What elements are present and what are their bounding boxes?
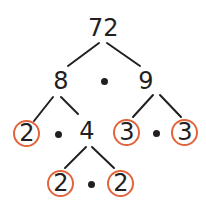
node-4: 4	[72, 116, 102, 146]
multiply-dot	[101, 78, 108, 85]
factor-tree-diagram: 72 8 9 2 4 3 3 2 2	[0, 0, 206, 204]
root-node-72: 72	[88, 13, 118, 43]
multiply-dot	[55, 131, 62, 138]
prime-node-2: 2	[12, 118, 42, 148]
prime-node-3: 3	[170, 117, 200, 147]
node-8: 8	[46, 66, 76, 96]
node-9: 9	[131, 66, 161, 96]
multiply-dot	[88, 181, 95, 188]
prime-node-3: 3	[112, 117, 142, 147]
prime-node-2: 2	[46, 168, 76, 198]
multiply-dot	[153, 130, 160, 137]
prime-node-2: 2	[106, 168, 136, 198]
